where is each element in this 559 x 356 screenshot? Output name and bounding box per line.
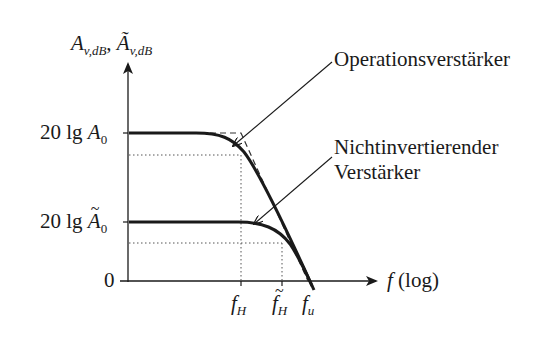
x-tick-label-fu: fu <box>302 293 314 314</box>
y-tick-label-20lg-a0: 20 lg A0 <box>40 122 107 143</box>
curve-nichtinvertierender-verstaerker <box>129 222 312 286</box>
x-tick-label-fh-tilde: fH <box>272 293 287 314</box>
y-tick-label-20lg-a0-tilde: 20 lg A0 <box>40 211 107 232</box>
asymptote-dashed <box>200 133 308 281</box>
x-axis-title: f (log) <box>387 270 439 291</box>
leader-line-operationsverstaerker <box>233 62 332 146</box>
label-operationsverstaerker: Operationsverstärker <box>334 49 510 70</box>
label-nichtinvertierender-verstaerker: Nichtinvertierender Verstärker <box>334 135 498 185</box>
y-tick-label-zero: 0 <box>104 270 115 291</box>
curve-operationsverstaerker <box>129 133 314 290</box>
x-tick-label-fh: fH <box>231 293 246 314</box>
y-axis-title: Av,dB, Ãv,dB <box>71 33 152 54</box>
axis-ticks <box>123 133 282 286</box>
